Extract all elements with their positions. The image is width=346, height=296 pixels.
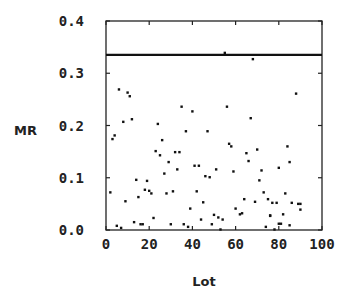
- data-point: [129, 95, 131, 97]
- data-point: [250, 117, 252, 119]
- data-point: [157, 123, 159, 125]
- x-tick-label: 60: [227, 236, 244, 252]
- x-tick-label: 100: [309, 236, 334, 252]
- data-point: [146, 180, 148, 182]
- y-tick-label: 0.4: [59, 13, 84, 29]
- data-point: [243, 198, 245, 200]
- data-point: [260, 169, 262, 171]
- data-point: [297, 203, 299, 205]
- data-point: [224, 52, 226, 54]
- y-axis-title: MR: [14, 123, 37, 138]
- data-point: [118, 88, 120, 90]
- data-point: [163, 172, 165, 174]
- data-point: [256, 148, 258, 150]
- data-point: [299, 208, 301, 210]
- data-point: [122, 121, 124, 123]
- plot-frame: [106, 21, 322, 230]
- data-point: [288, 224, 290, 226]
- data-point: [262, 191, 264, 193]
- x-tick-label: 80: [270, 236, 287, 252]
- data-point: [172, 190, 174, 192]
- data-point: [288, 161, 290, 163]
- data-point: [189, 207, 191, 209]
- data-point: [193, 165, 195, 167]
- data-point: [269, 214, 271, 216]
- y-tick-label: 0.1: [59, 170, 84, 186]
- data-point: [211, 223, 213, 225]
- data-point: [183, 223, 185, 225]
- data-point: [142, 223, 144, 225]
- data-point: [206, 130, 208, 132]
- data-point: [273, 228, 275, 230]
- data-point: [204, 175, 206, 177]
- data-point: [252, 58, 254, 60]
- data-point: [165, 192, 167, 194]
- data-point: [124, 200, 126, 202]
- data-point: [299, 203, 301, 205]
- data-point: [213, 214, 215, 216]
- data-point: [245, 152, 247, 154]
- data-point: [247, 160, 249, 162]
- plot-area: [106, 21, 322, 230]
- data-point: [200, 218, 202, 220]
- x-tick-label: 0: [102, 236, 110, 252]
- data-point: [120, 227, 122, 229]
- data-point: [278, 167, 280, 169]
- data-point: [241, 212, 243, 214]
- data-points: [109, 52, 301, 231]
- data-point: [178, 151, 180, 153]
- data-point: [187, 226, 189, 228]
- data-point: [116, 225, 118, 227]
- data-point: [154, 150, 156, 152]
- data-point: [232, 170, 234, 172]
- data-point: [159, 154, 161, 156]
- data-point: [198, 165, 200, 167]
- y-tick-label: 0.2: [59, 118, 84, 134]
- data-point: [230, 145, 232, 147]
- mr-chart: 0.00.10.20.30.4 020406080100 MR Lot: [0, 0, 346, 296]
- data-point: [113, 134, 115, 136]
- data-point: [167, 161, 169, 163]
- y-tick-label: 0.3: [59, 65, 84, 81]
- data-point: [174, 151, 176, 153]
- data-point: [280, 223, 282, 225]
- data-point: [180, 105, 182, 107]
- data-point: [228, 143, 230, 145]
- data-point: [170, 223, 172, 225]
- y-axis: 0.00.10.20.30.4: [59, 13, 322, 238]
- data-point: [275, 202, 277, 204]
- data-point: [271, 202, 273, 204]
- data-point: [144, 189, 146, 191]
- x-tick-label: 20: [141, 236, 158, 252]
- data-point: [291, 202, 293, 204]
- data-point: [217, 216, 219, 218]
- data-point: [282, 213, 284, 215]
- data-point: [278, 223, 280, 225]
- data-point: [135, 179, 137, 181]
- data-point: [295, 92, 297, 94]
- data-point: [161, 139, 163, 141]
- data-point: [196, 190, 198, 192]
- data-point: [139, 223, 141, 225]
- data-point: [265, 226, 267, 228]
- data-point: [131, 118, 133, 120]
- data-point: [176, 168, 178, 170]
- data-point: [111, 138, 113, 140]
- data-point: [185, 130, 187, 132]
- data-point: [109, 191, 111, 193]
- data-point: [239, 213, 241, 215]
- data-point: [152, 217, 154, 219]
- data-point: [219, 228, 221, 230]
- data-point: [254, 201, 256, 203]
- data-point: [191, 110, 193, 112]
- data-point: [137, 196, 139, 198]
- data-point: [284, 192, 286, 194]
- data-point: [148, 190, 150, 192]
- x-axis-title: Lot: [192, 274, 215, 289]
- data-point: [267, 198, 269, 200]
- data-point: [226, 105, 228, 107]
- data-point: [221, 218, 223, 220]
- data-point: [133, 221, 135, 223]
- x-tick-label: 40: [184, 236, 201, 252]
- data-point: [208, 176, 210, 178]
